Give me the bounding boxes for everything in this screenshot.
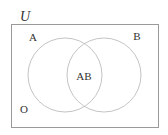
intersection-label: AB xyxy=(76,70,91,82)
set-b-label: B xyxy=(133,30,140,42)
venn-diagram: U A B AB O xyxy=(0,0,168,135)
outside-label: O xyxy=(20,103,28,115)
set-a-label: A xyxy=(29,31,37,43)
universe-label: U xyxy=(20,9,31,24)
